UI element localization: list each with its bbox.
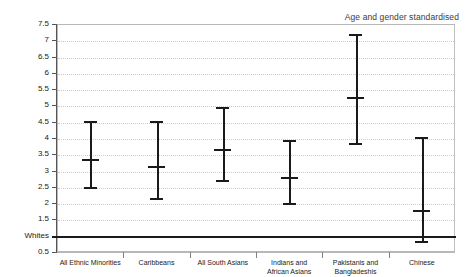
error-bar-range-line: [356, 34, 358, 143]
y-axis-tick-label: 1.5: [1, 215, 49, 223]
error-bar-point-marker: [82, 159, 99, 161]
error-bar-cap-bottom: [415, 241, 428, 243]
error-bar-cap-top: [216, 107, 229, 109]
error-bar-point-marker: [281, 177, 298, 179]
y-axis-tick-label: 6.5: [1, 53, 49, 61]
x-axis-category-label: All South Asians: [190, 259, 256, 268]
y-axis-tick-label: 2.5: [1, 183, 49, 191]
error-bar-point-marker: [347, 97, 364, 99]
error-bar-range-line: [157, 121, 159, 198]
y-axis-tick-label: 5.5: [1, 85, 49, 93]
error-bar-cap-top: [84, 121, 97, 123]
x-axis-category-label: Caribbeans: [123, 259, 189, 268]
error-bar-cap-bottom: [216, 180, 229, 182]
error-bar-point-marker: [148, 166, 165, 168]
x-axis-category-label: Chinese: [389, 259, 455, 268]
x-axis-separator: [389, 252, 390, 258]
y-axis-tick-label: 3: [1, 167, 49, 175]
y-axis-tick-label: 4.5: [1, 118, 49, 126]
error-bar-cap-bottom: [84, 187, 97, 189]
error-bar-cap-top: [283, 140, 296, 142]
y-axis-tick-label: 2: [1, 199, 49, 207]
error-bar-range-line: [223, 107, 225, 180]
error-bar-range-line: [289, 140, 291, 203]
y-axis-tick-label: Whites: [1, 232, 49, 240]
error-bar-range-line: [90, 121, 92, 187]
y-axis-tick-label: 0.5: [1, 248, 49, 256]
y-axis-tick-label: 4: [1, 134, 49, 142]
x-axis-separator: [322, 252, 323, 258]
error-bar-cap-bottom: [283, 203, 296, 205]
error-bar-cap-bottom: [349, 143, 362, 145]
error-bar-cap-top: [415, 137, 428, 139]
y-axis-tick-label: 7: [1, 36, 49, 44]
y-axis-tick-label: 3.5: [1, 150, 49, 158]
x-axis-separator: [190, 252, 191, 258]
error-bar-cap-top: [150, 121, 163, 123]
x-axis-category-label: All Ethnic Minorities: [57, 259, 123, 268]
x-axis-separator: [256, 252, 257, 258]
whites-reference-line: [52, 236, 456, 238]
y-axis-tick-label: 6: [1, 69, 49, 77]
error-bar-range-line: [422, 137, 424, 240]
y-axis-tick-label: 5: [1, 101, 49, 109]
error-bar-chart: Age and gender standardised 7.576.565.55…: [0, 0, 476, 277]
error-bar-point-marker: [413, 210, 430, 212]
error-bar-cap-top: [349, 34, 362, 36]
error-bar-point-marker: [214, 149, 231, 151]
x-axis-category-label: Pakistanis and Bangladeshis: [322, 259, 388, 276]
y-axis-tick-label: 7.5: [1, 20, 49, 28]
x-axis-category-label: Indians and African Asians: [256, 259, 322, 276]
error-bar-cap-bottom: [150, 198, 163, 200]
y-axis-tick-labels: 7.576.565.554.543.532.521.5Whites0.5: [0, 0, 53, 277]
x-axis-separator: [123, 252, 124, 258]
